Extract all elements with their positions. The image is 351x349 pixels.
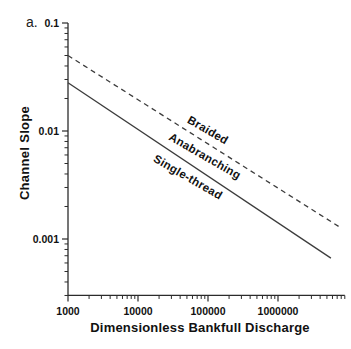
solid-boundary-line [68, 83, 331, 258]
y-tick-label-0.1: 0.1 [13, 17, 59, 29]
dashed-boundary-line [68, 56, 341, 228]
y-tick-label-0.01: 0.01 [13, 125, 59, 137]
x-tick-label-1000: 1000 [33, 305, 103, 317]
x-tick-label-100000: 100000 [173, 305, 243, 317]
x-tick-label-1000000: 1000000 [243, 305, 313, 317]
x-tick-label-10000: 10000 [103, 305, 173, 317]
figure-panel-a: a. Channel Slope Dimensionless Bankfull … [0, 0, 351, 349]
y-tick-label-0.001: 0.001 [13, 233, 59, 245]
y-axis-title: Channel Slope [17, 106, 32, 200]
x-axis-title: Dimensionless Bankfull Discharge [50, 320, 350, 335]
